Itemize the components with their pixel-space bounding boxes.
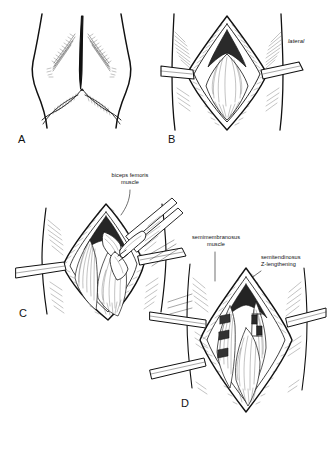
retractor-right-upper-d bbox=[286, 308, 326, 327]
panel-c-illustration bbox=[22, 190, 192, 325]
callout-semimembranosus: semimembranosus muscle bbox=[180, 234, 252, 248]
panel-d-illustration bbox=[168, 262, 326, 422]
retractor-left bbox=[161, 66, 194, 79]
panel-letter-b: B bbox=[168, 134, 176, 145]
panel-a: A bbox=[20, 10, 145, 135]
retractor-right bbox=[261, 62, 303, 79]
callout-semitendinosus: semitendinosus Z-lengthening bbox=[261, 254, 329, 268]
retractor-left-c bbox=[16, 262, 66, 278]
panel-c: C bbox=[22, 190, 192, 325]
panel-b: B bbox=[163, 10, 313, 135]
retractor-left-lower-d bbox=[150, 358, 206, 379]
panel-letter-d: D bbox=[181, 398, 189, 409]
panel-a-illustration bbox=[20, 10, 145, 135]
callout-biceps-femoris: biceps femoris muscle bbox=[100, 172, 160, 186]
panel-letter-a: A bbox=[18, 134, 26, 145]
panel-letter-c: C bbox=[19, 308, 27, 319]
surgical-figure: A bbox=[0, 0, 329, 452]
panel-b-illustration bbox=[163, 10, 313, 135]
callout-lateral: lateral bbox=[288, 38, 304, 45]
retractor-left-upper-d bbox=[150, 312, 206, 328]
panel-d: D bbox=[168, 262, 326, 422]
